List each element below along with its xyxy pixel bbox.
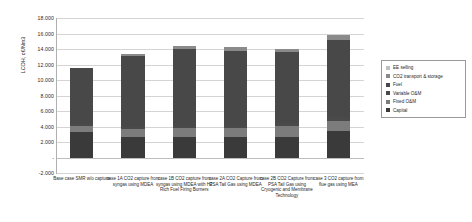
chart-legend: EE sellingCO2 transport & storageFuelVar…	[381, 60, 466, 118]
x-axis-category-label: case 2A CO2 Capture from PSA Tail Gas us…	[207, 176, 264, 187]
legend-item-label: Variable O&M	[393, 91, 421, 96]
bar-segment[interactable]	[173, 137, 197, 158]
table-row[interactable]	[121, 54, 145, 158]
x-axis-category-label: case 3 CO2 capture from flue gas using M…	[310, 176, 367, 187]
y-axis-tick-label: -	[6, 155, 54, 161]
y-axis-tick-label: 12.000	[6, 62, 54, 68]
x-axis-category-label: Base case SMR w/o capture	[53, 176, 110, 182]
y-axis-tick-label: 4.000	[6, 124, 54, 130]
y-axis-tick-label: 8.000	[6, 93, 54, 99]
legend-item-label: CO2 transport & storage	[393, 74, 443, 79]
legend-item-label: Fixed O&M	[393, 99, 416, 104]
bar-slot	[261, 18, 312, 173]
bar-segment[interactable]	[121, 56, 145, 127]
y-axis-tick-label: -2.000	[6, 170, 54, 176]
x-axis-category-label: case 2B CO2 Capture from PSA Tail Gas us…	[258, 176, 315, 198]
bar-segment[interactable]	[121, 129, 145, 137]
bar-segment[interactable]	[224, 137, 248, 158]
legend-item[interactable]: Fuel	[386, 82, 461, 87]
legend-item-label: EE selling	[393, 65, 413, 70]
bar-segment[interactable]	[327, 40, 351, 117]
bar-segment[interactable]	[275, 137, 299, 158]
y-axis-tick-label: 10.000	[6, 77, 54, 83]
bar-slot	[210, 18, 261, 173]
table-row[interactable]	[70, 68, 94, 157]
legend-item[interactable]: EE selling	[386, 65, 461, 70]
legend-swatch-icon	[386, 74, 390, 78]
legend-swatch-icon	[386, 91, 390, 95]
bar-segment[interactable]	[70, 68, 94, 124]
legend-item-label: Capital	[393, 108, 407, 113]
y-axis-tick-label: 6.000	[6, 108, 54, 114]
legend-item[interactable]: CO2 transport & storage	[386, 74, 461, 79]
x-axis-category-labels: Base case SMR w/o capturecase 1A CO2 cap…	[56, 176, 364, 222]
table-row[interactable]	[327, 35, 351, 158]
bar-segment[interactable]	[121, 137, 145, 157]
legend-swatch-icon	[386, 100, 390, 104]
y-axis-tick-label: 14.000	[6, 46, 54, 52]
x-axis-category-label: case 1B CO2 capture from syngas using MD…	[156, 176, 213, 193]
y-axis-title: LCOH, c€/Nm3	[20, 10, 26, 100]
bar-segment[interactable]	[173, 49, 197, 126]
legend-item[interactable]: Variable O&M	[386, 91, 461, 96]
table-row[interactable]	[224, 47, 248, 158]
x-axis-category-label: case 1A CO2 capture from syngas using MD…	[104, 176, 161, 187]
bar-series-container	[56, 18, 364, 173]
y-axis-tick-label: 2.000	[6, 139, 54, 145]
bar-segment[interactable]	[275, 126, 299, 137]
legend-swatch-icon	[386, 83, 390, 87]
bar-segment[interactable]	[173, 128, 197, 136]
bar-segment[interactable]	[70, 132, 94, 157]
legend-swatch-icon	[386, 66, 390, 70]
bar-segment[interactable]	[327, 121, 351, 131]
bar-slot	[107, 18, 158, 173]
legend-item[interactable]: Fixed O&M	[386, 99, 461, 104]
legend-item-label: Fuel	[393, 82, 402, 87]
y-axis-tick-label: 18.000	[6, 15, 54, 21]
legend-swatch-icon	[386, 108, 390, 112]
bar-slot	[56, 18, 107, 173]
legend-item[interactable]: Capital	[386, 108, 461, 113]
lcoh-stacked-bar-chart: 18.00016.00014.00012.00010.0008.0006.000…	[0, 0, 472, 222]
table-row[interactable]	[275, 49, 299, 157]
bar-slot	[159, 18, 210, 173]
table-row[interactable]	[173, 46, 197, 158]
bar-segment[interactable]	[224, 51, 248, 127]
bar-segment[interactable]	[224, 128, 248, 136]
bar-slot	[313, 18, 364, 173]
bar-segment[interactable]	[275, 52, 299, 123]
grid-line	[56, 173, 364, 174]
bar-segment[interactable]	[327, 131, 351, 158]
y-axis-tick-label: 16.000	[6, 31, 54, 37]
y-axis-tick-labels: 18.00016.00014.00012.00010.0008.0006.000…	[0, 18, 54, 174]
